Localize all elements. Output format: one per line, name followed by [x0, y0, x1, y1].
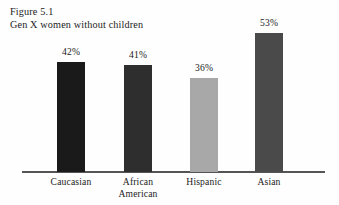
bar-rect	[57, 62, 85, 172]
x-axis-label-line: American	[93, 188, 183, 200]
x-axis-label-line: Asian	[224, 176, 314, 188]
bar-value-label: 42%	[62, 46, 80, 57]
bar-value-label: 53%	[260, 17, 278, 28]
x-axis-label-asian: Asian	[224, 176, 314, 188]
bar-hispanic[interactable]	[190, 78, 218, 172]
bar-caucasian[interactable]	[57, 62, 85, 172]
bar-rect	[255, 33, 283, 172]
bar-value-label: 36%	[195, 62, 213, 73]
bar-african-american[interactable]	[124, 65, 152, 172]
figure-container: Figure 5.1 Gen X women without children …	[0, 0, 339, 205]
bar-chart-plot-area: 42%Caucasian41%AfricanAmerican36%Hispani…	[0, 0, 339, 205]
bar-asian[interactable]	[255, 33, 283, 172]
bar-value-label: 41%	[129, 49, 147, 60]
bar-rect	[124, 65, 152, 172]
bar-rect	[190, 78, 218, 172]
